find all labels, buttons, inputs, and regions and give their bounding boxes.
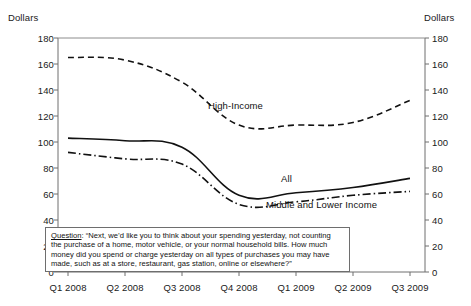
x-tick-marks: [68, 272, 410, 276]
question-line-1: Question: “Next, we’d like you to think …: [51, 231, 345, 240]
question-line-4: made, such as at a store, restaurant, ga…: [51, 259, 345, 268]
question-label: Question: [51, 231, 82, 240]
question-line-3: money did you spend or charge yesterday …: [51, 250, 345, 259]
all-label: All: [281, 173, 292, 184]
series-line-high-income: [68, 57, 410, 129]
right-tick-marks: [425, 38, 429, 272]
question-line-2: the purchase of a home, motor vehicle, o…: [51, 240, 345, 249]
question-note-box: Question: “Next, we’d like you to think …: [45, 227, 350, 272]
chart-container: Dollars Dollars 180 160 140 120 100 80 6…: [0, 0, 471, 306]
high-income-label: High-Income: [208, 100, 263, 111]
series-line-all: [68, 138, 410, 199]
middle-lower-income-label: Middle and Lower Income: [266, 199, 377, 210]
question-text-1: : “Next, we’d like you to think about yo…: [82, 231, 331, 240]
